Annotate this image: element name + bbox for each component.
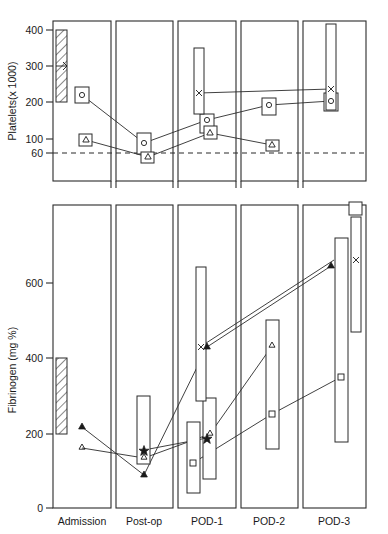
- figure-root: 400 300 200 100 60 Platelets(x 1000): [0, 0, 388, 534]
- top-panel-bottom-ticks: [111, 181, 303, 188]
- top-triangle-range-pod1: [204, 126, 217, 139]
- bottom-normal-range-band: [56, 358, 67, 434]
- top-ytick-300: 300: [25, 60, 43, 72]
- bottom-open-triangle-range-pod2: [266, 320, 279, 449]
- bottom-ytick-400: 400: [25, 352, 43, 364]
- xtick-pod1: POD-1: [191, 515, 223, 527]
- top-x-range-pod1: [194, 48, 204, 114]
- bottom-x-range-pod1: [196, 267, 206, 401]
- top-ytick-60: 60: [31, 147, 43, 159]
- top-circle-range-pod2: [262, 98, 276, 115]
- bottom-marker-filled-triangle-admission: [79, 423, 86, 429]
- bottom-panel: 600 400 200 0 Fibrinogen (mg %): [6, 202, 366, 527]
- bottom-marker-filled-triangle-pod3: [328, 262, 335, 268]
- bottom-ytick-0: 0: [37, 502, 43, 514]
- bottom-square-range-pod1: [187, 422, 200, 493]
- bottom-axis-title: Fibrinogen (mg %): [6, 327, 18, 413]
- xtick-postop: Post-op: [126, 515, 162, 527]
- bottom-ytick-600: 600: [25, 277, 43, 289]
- top-circle-range-admission: [75, 87, 89, 103]
- xtick-admission: Admission: [58, 515, 107, 527]
- top-axis-ticks: [46, 30, 53, 153]
- top-axis-title: Platelets(x 1000): [6, 62, 18, 141]
- top-circle-range-postop: [137, 133, 151, 154]
- top-panel-frames: [53, 21, 366, 181]
- bottom-axis-ticks: [46, 283, 53, 508]
- top-x-series-line: [199, 89, 331, 93]
- top-panel: 400 300 200 100 60 Platelets(x 1000): [6, 21, 366, 188]
- bottom-x-range-pod3-cap: [349, 202, 362, 215]
- xtick-pod2: POD-2: [253, 515, 285, 527]
- bottom-x-range-pod3: [351, 217, 361, 332]
- top-ytick-100: 100: [25, 133, 43, 145]
- top-x-range-pod3: [326, 24, 336, 110]
- top-ytick-200: 200: [25, 96, 43, 108]
- xtick-pod3: POD-3: [318, 515, 350, 527]
- figure-canvas: 400 300 200 100 60 Platelets(x 1000): [0, 0, 388, 534]
- bottom-ytick-200: 200: [25, 428, 43, 440]
- bottom-marker-filled-triangle-postop: [141, 471, 148, 477]
- top-triangle-range-admission: [79, 134, 92, 146]
- bottom-square-range-pod3: [335, 238, 348, 442]
- top-ytick-400: 400: [25, 24, 43, 36]
